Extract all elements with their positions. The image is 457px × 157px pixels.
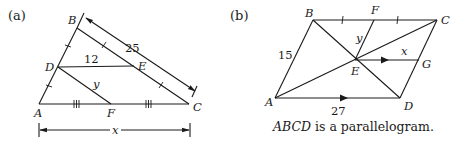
caption-rest: is a parallelogram. <box>311 119 434 134</box>
figure-a-part-label: (a) <box>8 8 26 23</box>
bc-dimension-arrow <box>86 18 195 91</box>
point-label-a: A <box>264 95 273 109</box>
length-label-ac: x <box>112 123 119 137</box>
point-label-f: F <box>370 3 380 17</box>
tick-mark <box>46 85 52 87</box>
point-label-d: D <box>44 60 54 74</box>
segment-de <box>58 66 134 67</box>
tick-mark <box>159 82 163 88</box>
point-label-g: G <box>422 57 431 71</box>
point-label-b: B <box>304 6 313 20</box>
figure-b: (b) B F C A D E G 15 27 y x ABCD is a pa… <box>230 3 450 134</box>
length-label-ef: y <box>355 31 363 45</box>
geometry-figures: (a) A <box>0 0 457 157</box>
point-label-f: F <box>106 106 116 120</box>
parallel-arrow-mark <box>340 95 348 102</box>
figure-b-part-label: (b) <box>230 8 248 23</box>
point-label-b: B <box>67 13 76 27</box>
segment-df <box>58 67 111 104</box>
length-label-ab: 15 <box>278 48 293 62</box>
length-label-df: y <box>92 77 100 91</box>
point-label-e: E <box>137 59 147 73</box>
point-label-a: A <box>33 106 42 120</box>
tick-mark <box>342 16 343 24</box>
figure-a: (a) A <box>8 8 202 137</box>
caption-italic: ABCD <box>272 119 311 134</box>
ab-extension <box>77 13 84 28</box>
dimension-end-tick <box>192 86 197 97</box>
parallel-arrow-mark <box>381 57 389 64</box>
point-label-d: D <box>403 99 413 113</box>
point-label-e: E <box>350 64 360 78</box>
length-label-eg: x <box>401 44 408 58</box>
length-label-bc: 25 <box>125 41 140 55</box>
tick-mark <box>397 16 398 24</box>
side-cd <box>400 20 437 98</box>
point-label-c: C <box>193 100 202 114</box>
figure-b-caption: ABCD is a parallelogram. <box>272 119 434 134</box>
point-label-c: C <box>441 13 450 27</box>
length-label-de: 12 <box>84 52 99 66</box>
length-label-ad: 27 <box>331 104 346 118</box>
